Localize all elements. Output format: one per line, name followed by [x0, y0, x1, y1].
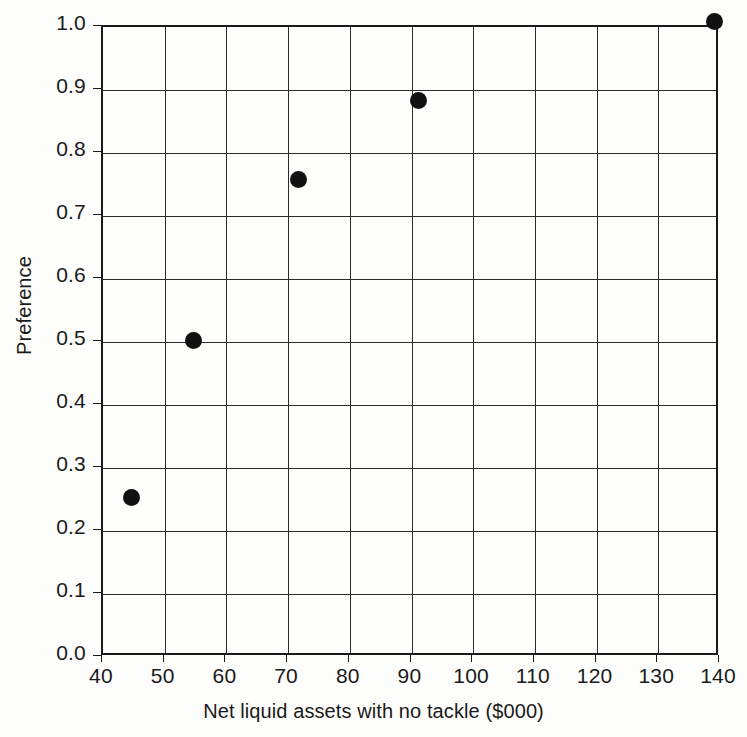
y-axis-tick	[93, 25, 101, 26]
gridline-horizontal	[103, 468, 716, 469]
x-axis-tick	[471, 655, 472, 662]
x-axis-tick	[101, 655, 102, 662]
gridline-vertical	[658, 27, 659, 653]
x-axis-tick-label: 140	[688, 664, 747, 688]
data-point	[185, 332, 202, 349]
y-axis-tick	[93, 277, 101, 278]
gridline-horizontal	[103, 153, 716, 154]
x-axis-tick-label: 60	[194, 664, 254, 688]
x-axis-tick-label: 120	[565, 664, 625, 688]
x-axis-title: Net liquid assets with no tackle ($000)	[0, 700, 747, 723]
y-axis-tick-label: 0.2	[26, 515, 86, 539]
gridline-vertical	[165, 27, 166, 653]
y-axis-tick-label: 0.4	[26, 389, 86, 413]
y-axis-tick	[93, 529, 101, 530]
y-axis-tick	[93, 214, 101, 215]
gridline-vertical	[226, 27, 227, 653]
x-axis-tick-label: 70	[256, 664, 316, 688]
x-axis-tick	[410, 655, 411, 662]
x-axis-tick-label: 100	[441, 664, 501, 688]
y-axis-tick	[93, 151, 101, 152]
x-axis-tick	[595, 655, 596, 662]
x-axis-tick	[533, 655, 534, 662]
x-axis-tick-label: 40	[71, 664, 131, 688]
gridline-vertical	[535, 27, 536, 653]
y-axis-tick	[93, 340, 101, 341]
x-axis-tick	[718, 655, 719, 662]
x-axis-tick-label: 90	[380, 664, 440, 688]
y-axis-title: Preference	[13, 236, 36, 376]
x-axis-tick	[163, 655, 164, 662]
x-axis-tick	[656, 655, 657, 662]
gridline-vertical	[412, 27, 413, 653]
x-axis-tick	[224, 655, 225, 662]
y-axis-tick-label: 0.1	[26, 578, 86, 602]
y-axis-tick	[93, 88, 101, 89]
gridline-horizontal	[103, 216, 716, 217]
gridline-vertical	[473, 27, 474, 653]
scatter-chart-figure: 4050607080901001101201301400.00.10.20.30…	[0, 0, 747, 737]
x-axis-tick-label: 50	[133, 664, 193, 688]
gridline-horizontal	[103, 279, 716, 280]
gridline-horizontal	[103, 90, 716, 91]
y-axis-tick-label: 0.8	[26, 137, 86, 161]
x-axis-tick	[348, 655, 349, 662]
y-axis-tick	[93, 403, 101, 404]
y-axis-tick	[93, 466, 101, 467]
y-axis-tick-label: 0.0	[26, 641, 86, 665]
data-point	[290, 171, 307, 188]
y-axis-tick-label: 0.9	[26, 74, 86, 98]
y-axis-tick-label: 0.3	[26, 452, 86, 476]
gridline-vertical	[288, 27, 289, 653]
gridline-vertical	[597, 27, 598, 653]
gridline-horizontal	[103, 594, 716, 595]
x-axis-tick-label: 80	[318, 664, 378, 688]
gridline-vertical	[350, 27, 351, 653]
x-axis-tick	[286, 655, 287, 662]
gridline-horizontal	[103, 531, 716, 532]
gridline-horizontal	[103, 405, 716, 406]
x-axis-tick-label: 110	[503, 664, 563, 688]
y-axis-tick-label: 0.7	[26, 200, 86, 224]
x-axis-tick-label: 130	[626, 664, 686, 688]
data-point	[706, 13, 723, 30]
y-axis-tick	[93, 592, 101, 593]
y-axis-tick	[93, 655, 101, 656]
y-axis-tick-label: 1.0	[26, 11, 86, 35]
